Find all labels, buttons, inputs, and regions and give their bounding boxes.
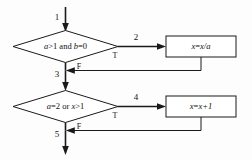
decision-node-1[interactable]: a>1 and b=0 [13,31,118,63]
process-2-label: x=x+1 [189,100,212,110]
edge-decision1-true: 2 T [113,32,166,60]
edge-merge-to-decision2 [62,71,69,92]
process-1-label: x=x/a [191,40,211,50]
edge-number-merge: 3 [55,69,60,79]
flowchart-canvas: 1 a>1 and b=0 2 T x=x/a [0,0,252,160]
process-node-2[interactable]: x=x+1 [166,96,236,117]
edge-process2-return [66,117,201,134]
decision-2-label: a=2 or x>1 [47,100,84,110]
true-branch-bottom-arrow-head [157,103,166,110]
process-2-return-arrow-head [66,127,75,134]
process-1-rhs: x/a [199,40,210,50]
edge-number-entry: 1 [55,12,60,22]
process-2-rhs: x+1 [197,100,212,110]
entry-edge: 1 [55,7,69,32]
decision-1-label: a>1 and b=0 [44,40,87,50]
branch-label-decision2-false: F [77,122,82,131]
branch-label-decision1-true: T [113,51,118,60]
edge-process1-return [66,57,201,74]
decision-1-op-1: >1 and [48,40,74,50]
edge-number-true-top: 2 [134,32,139,42]
merge-to-decision2-arrow-head [62,82,69,91]
branch-label-decision2-true: T [113,111,118,120]
branch-label-decision1-false: F [77,62,82,71]
flowchart-svg: 1 a>1 and b=0 2 T x=x/a [0,0,252,160]
process-1-return-arrow-head [66,67,75,74]
decision-2-op-2: >1 [75,100,84,110]
decision-node-2[interactable]: a=2 or x>1 [13,91,118,123]
decision-1-op-2: =0 [78,40,87,50]
exit-edge [62,131,69,156]
edge-number-exit: 5 [55,129,60,139]
decision-2-op-1: =2 or [51,100,71,110]
process-2-return-line [71,117,201,131]
exit-arrow-head [62,146,69,155]
edge-number-true-bottom: 4 [134,92,139,102]
process-1-return-line [71,57,201,71]
edge-decision2-true: 4 T [113,92,166,120]
process-node-1[interactable]: x=x/a [166,36,236,57]
true-branch-top-arrow-head [157,43,166,50]
